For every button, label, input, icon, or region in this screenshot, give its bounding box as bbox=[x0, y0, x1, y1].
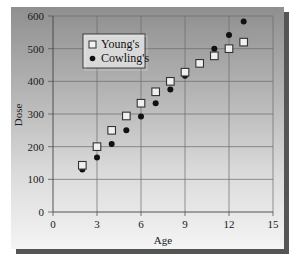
data-point-cowlings bbox=[241, 19, 247, 25]
x-axis-label: Age bbox=[154, 234, 172, 246]
legend-label-youngs: Young's bbox=[101, 37, 140, 51]
y-tick-label: 0 bbox=[39, 206, 45, 218]
data-point-youngs bbox=[123, 112, 131, 120]
data-point-cowlings bbox=[138, 114, 144, 120]
y-tick-label: 500 bbox=[28, 43, 45, 55]
x-tick-label: 3 bbox=[94, 218, 100, 230]
x-tick-label: 0 bbox=[50, 218, 56, 230]
data-point-cowlings bbox=[167, 87, 173, 93]
data-point-cowlings bbox=[123, 127, 129, 133]
data-point-youngs bbox=[108, 127, 116, 135]
scatter-chart: 036912150100200300400500600 Young's Cowl… bbox=[0, 0, 293, 256]
data-point-youngs bbox=[196, 60, 204, 68]
legend-circle-icon bbox=[90, 56, 96, 62]
data-point-youngs bbox=[137, 99, 145, 107]
y-tick-label: 200 bbox=[28, 141, 45, 153]
data-point-youngs bbox=[79, 161, 87, 169]
data-point-cowlings bbox=[226, 32, 232, 38]
y-tick-label: 100 bbox=[28, 173, 45, 185]
y-tick-label: 300 bbox=[28, 108, 45, 120]
legend-label-cowlings: Cowling's bbox=[101, 51, 150, 65]
data-point-youngs bbox=[211, 52, 219, 60]
data-point-cowlings bbox=[109, 141, 115, 147]
x-tick-label: 6 bbox=[138, 218, 144, 230]
data-point-cowlings bbox=[211, 46, 217, 52]
y-axis-label: Dose bbox=[12, 104, 24, 127]
data-point-cowlings bbox=[94, 154, 100, 160]
legend: Young's Cowling's bbox=[83, 34, 150, 70]
data-point-youngs bbox=[167, 78, 175, 86]
x-tick-label: 15 bbox=[268, 218, 280, 230]
data-point-youngs bbox=[225, 45, 233, 53]
data-point-youngs bbox=[181, 68, 189, 76]
legend-square-icon bbox=[89, 41, 96, 48]
y-tick-label: 400 bbox=[28, 75, 45, 87]
y-tick-label: 600 bbox=[28, 10, 45, 22]
x-tick-label: 9 bbox=[182, 218, 188, 230]
x-tick-label: 12 bbox=[224, 218, 235, 230]
data-point-cowlings bbox=[153, 100, 159, 106]
data-point-youngs bbox=[240, 38, 248, 46]
data-point-youngs bbox=[152, 88, 160, 96]
data-point-youngs bbox=[93, 143, 101, 151]
